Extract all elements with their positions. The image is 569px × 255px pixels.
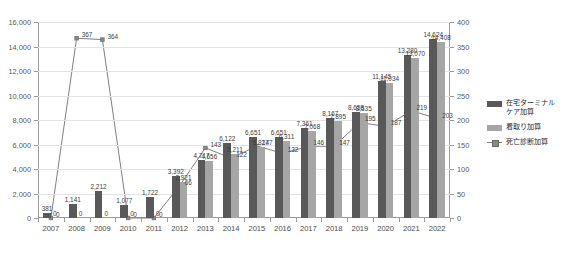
bar-mitori — [411, 58, 419, 218]
bar-value-label: 6,122 — [219, 135, 235, 142]
line-value-label: 364 — [107, 33, 118, 40]
x-axis-tick — [193, 218, 194, 222]
line-value-label: 195 — [365, 115, 376, 122]
y-axis-primary-label: 4,000 — [13, 165, 32, 174]
legend-item[interactable]: 看取り加算 — [487, 123, 555, 132]
y-axis-secondary-label: 400 — [457, 18, 469, 27]
bar-home-terminal-care — [146, 197, 154, 218]
y-axis-primary-label: 6,000 — [13, 140, 32, 149]
bar-value-label: 7,895 — [330, 113, 346, 120]
y-axis-secondary-tick — [450, 169, 454, 170]
y-axis-secondary-label: 50 — [457, 189, 465, 198]
bar-home-terminal-care — [43, 213, 51, 218]
x-axis-tick — [321, 218, 322, 222]
gridline — [38, 22, 450, 23]
y-axis-primary-tick — [34, 47, 38, 48]
bar-value-label: 0 — [104, 210, 108, 217]
gridline — [38, 47, 450, 48]
bar-value-label: 4,656 — [201, 153, 217, 160]
x-axis-label: 2016 — [274, 224, 291, 233]
y-axis-secondary-tick — [450, 71, 454, 72]
y-axis-secondary-tick — [450, 47, 454, 48]
bar-value-label: 7,068 — [304, 123, 320, 130]
bar-value-label: 11,034 — [380, 75, 399, 82]
x-axis-tick — [399, 218, 400, 222]
y-axis-secondary-label: 150 — [457, 140, 469, 149]
x-axis-tick — [244, 218, 245, 222]
bar-mitori — [386, 83, 394, 218]
bar-mitori — [231, 154, 239, 218]
y-axis-secondary-label: 300 — [457, 67, 469, 76]
bar-mitori — [334, 121, 342, 218]
x-axis-label: 2018 — [326, 224, 343, 233]
gridline — [38, 71, 450, 72]
y-axis-primary-tick — [34, 96, 38, 97]
legend-item[interactable]: 死亡診断加算 — [487, 138, 555, 147]
bar-home-terminal-care — [172, 176, 180, 218]
line-value-label: 0 — [159, 211, 163, 218]
bar-value-label: 1,141 — [65, 196, 81, 203]
y-axis-secondary-label: 350 — [457, 42, 469, 51]
bar-value-label: 0 — [79, 210, 83, 217]
x-axis-tick — [167, 218, 168, 222]
line-value-label: 132 — [288, 146, 299, 153]
y-axis-primary-label: 8,000 — [13, 116, 32, 125]
bar-home-terminal-care — [404, 55, 412, 218]
y-axis-primary-tick — [34, 22, 38, 23]
bar-value-label: 1,722 — [142, 189, 158, 196]
line-value-label: 0 — [56, 211, 60, 218]
y-axis-secondary-label: 200 — [457, 116, 469, 125]
line-value-label: 187 — [391, 119, 402, 126]
bar-home-terminal-care — [275, 137, 283, 218]
x-axis-label: 2017 — [300, 224, 317, 233]
legend-label: 在宅ターミナル ケア加算 — [506, 99, 555, 117]
legend-item[interactable]: 在宅ターミナル ケア加算 — [487, 99, 555, 117]
chart-container: 02,0004,0006,0008,00010,00012,00014,0001… — [0, 0, 569, 255]
line-value-label: 203 — [442, 112, 453, 119]
bar-mitori — [437, 42, 445, 218]
bar-home-terminal-care — [352, 112, 360, 218]
y-axis-secondary-label: 250 — [457, 91, 469, 100]
x-axis-tick — [270, 218, 271, 222]
bar-home-terminal-care — [249, 137, 257, 218]
bar-value-label: 14,408 — [431, 34, 451, 41]
legend-label: 看取り加算 — [506, 123, 541, 132]
x-axis-label: 2008 — [68, 224, 85, 233]
bar-home-terminal-care — [69, 204, 77, 218]
y-axis-primary-label: 16,000 — [8, 18, 31, 27]
bar-home-terminal-care — [95, 191, 103, 218]
legend-swatch-icon — [487, 125, 502, 131]
bar-value-label: 1,077 — [116, 197, 132, 204]
bar-home-terminal-care — [198, 160, 206, 218]
line-value-label: 147 — [339, 139, 350, 146]
y-axis-primary-label: 12,000 — [8, 67, 31, 76]
x-axis-label: 2014 — [223, 224, 240, 233]
bar-mitori — [180, 182, 188, 218]
bar-mitori — [257, 147, 265, 218]
y-axis-primary-tick — [34, 169, 38, 170]
x-axis-label: 2012 — [171, 224, 188, 233]
x-axis-label: 2010 — [120, 224, 137, 233]
y-axis-primary-label: 14,000 — [8, 42, 31, 51]
x-axis-tick — [424, 218, 425, 222]
line-value-label: 143 — [210, 141, 221, 148]
y-axis-primary-label: 0 — [27, 214, 31, 223]
line-value-label: 122 — [236, 151, 247, 158]
y-axis-secondary-tick — [450, 22, 454, 23]
y-axis-primary-label: 2,000 — [13, 189, 32, 198]
y-axis-secondary-tick — [450, 145, 454, 146]
legend-line-marker-icon — [487, 139, 502, 146]
x-axis-tick — [115, 218, 116, 222]
line-value-label: 367 — [82, 31, 93, 38]
plot-area: 02,0004,0006,0008,00010,00012,00014,0001… — [38, 22, 450, 218]
x-axis-tick — [90, 218, 91, 222]
x-axis-tick — [38, 218, 39, 222]
line-value-label: 0 — [133, 211, 137, 218]
x-axis-label: 2021 — [403, 224, 420, 233]
chart-legend: 在宅ターミナル ケア加算看取り加算死亡診断加算 — [487, 99, 555, 152]
x-axis-label: 2020 — [377, 224, 394, 233]
line-value-label: 66 — [185, 179, 192, 186]
y-axis-secondary-tick — [450, 96, 454, 97]
x-axis-label: 2019 — [351, 224, 368, 233]
line-value-label: 147 — [262, 139, 273, 146]
